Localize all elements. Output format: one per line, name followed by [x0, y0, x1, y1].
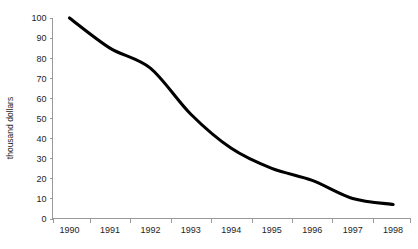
x-tick-label: 1998: [383, 225, 403, 235]
x-tick-label: 1991: [100, 225, 120, 235]
y-tick-label: 30: [36, 154, 46, 164]
y-tick-label: 50: [36, 114, 46, 124]
x-tick-label: 1996: [302, 225, 322, 235]
y-tick-label: 90: [36, 33, 46, 43]
chart-background: [0, 0, 418, 249]
y-tick-label: 80: [36, 54, 46, 64]
y-tick-label: 60: [36, 94, 46, 104]
x-tick-label: 1995: [262, 225, 282, 235]
y-tick-label: 20: [36, 174, 46, 184]
y-tick-label: 100: [31, 13, 46, 23]
x-tick-label: 1997: [343, 225, 363, 235]
y-tick-label: 70: [36, 74, 46, 84]
y-tick-label: 10: [36, 194, 46, 204]
y-axis-title: thousand dollars: [5, 97, 15, 159]
line-chart: 0102030405060708090100 19901991199219931…: [0, 0, 418, 249]
y-tick-label: 0: [41, 214, 46, 224]
x-tick-label: 1994: [221, 225, 241, 235]
x-tick-label: 1993: [181, 225, 201, 235]
chart-figure: 0102030405060708090100 19901991199219931…: [0, 0, 418, 249]
x-tick-label: 1992: [140, 225, 160, 235]
y-tick-label: 40: [36, 134, 46, 144]
x-tick-label: 1990: [59, 225, 79, 235]
